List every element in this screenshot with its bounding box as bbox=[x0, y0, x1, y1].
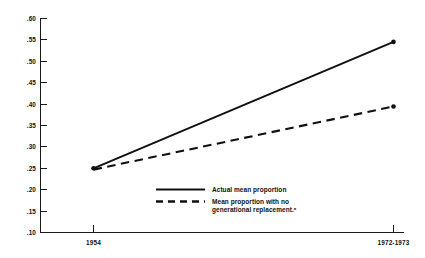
y-tick-label: .40 bbox=[27, 101, 37, 108]
y-tick-label: .30 bbox=[27, 143, 37, 150]
y-tick-label: .20 bbox=[27, 186, 37, 193]
y-tick-label: .55 bbox=[27, 36, 37, 43]
series-line-actual bbox=[94, 42, 394, 168]
y-tick-label: .15 bbox=[27, 208, 37, 215]
y-tick-label: .45 bbox=[27, 79, 37, 86]
data-point-marker bbox=[391, 40, 396, 45]
chart-canvas: .60 .55 .50 .45 .40 .35 .30 .25 .20 .15 … bbox=[0, 0, 425, 258]
y-tick-label: .10 bbox=[27, 229, 37, 236]
y-axis-ticks bbox=[41, 19, 48, 233]
y-axis-labels: .60 .55 .50 .45 .40 .35 .30 .25 .20 .15 … bbox=[27, 15, 37, 236]
x-axis-ticks bbox=[94, 225, 394, 233]
line-chart: .60 .55 .50 .45 .40 .35 .30 .25 .20 .15 … bbox=[0, 0, 425, 258]
x-tick-label: 1972-1973 bbox=[378, 239, 410, 246]
chart-legend: Actual mean proportion Mean proportion w… bbox=[156, 186, 297, 214]
x-axis-labels: 1954 1972-1973 bbox=[86, 239, 410, 246]
y-tick-label: .25 bbox=[27, 165, 37, 172]
data-point-marker bbox=[391, 104, 396, 109]
y-tick-label: .60 bbox=[27, 15, 37, 22]
y-tick-label: .50 bbox=[27, 58, 37, 65]
legend-label-actual: Actual mean proportion bbox=[212, 186, 286, 194]
series-line-no-replacement bbox=[94, 107, 394, 170]
legend-label-text: generational replacement. bbox=[212, 206, 294, 214]
legend-label-no-replacement-line2: generational replacement.a bbox=[212, 205, 297, 214]
y-tick-label: .35 bbox=[27, 122, 37, 129]
legend-footnote-superscript: a bbox=[294, 205, 297, 210]
x-tick-label: 1954 bbox=[86, 239, 101, 246]
